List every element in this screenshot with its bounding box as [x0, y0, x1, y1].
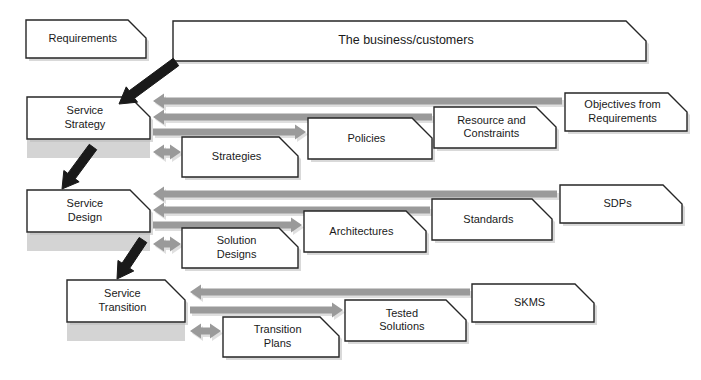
flag-node-requirements: Requirements — [26, 20, 149, 61]
flag-label-objectives-from-requirements: Objectives fromRequirements — [584, 98, 660, 124]
flag-label-service-strategy: ServiceStrategy — [64, 104, 105, 130]
flag-label-resource-and-constraints: Resource andConstraints — [457, 114, 526, 140]
flag-node-tested-solutions: TestedSolutions — [345, 300, 469, 344]
flag-node-skms: SKMS — [472, 284, 597, 325]
flag-node-standards: Standards — [432, 199, 555, 243]
flag-label-standards: Standards — [463, 212, 514, 224]
flag-label-service-transition: ServiceTransition — [98, 287, 146, 313]
flag-node-strategies: Strategies — [182, 137, 301, 180]
flag-node-architectures: Architectures — [304, 211, 429, 255]
flag-node-layer: RequirementsThe business/customersServic… — [26, 20, 690, 360]
service-transition-row-band — [67, 323, 185, 341]
flag-node-sdps: SDPs — [560, 185, 685, 226]
business-to-service-strategy-arrow — [119, 58, 179, 104]
diagram-canvas: RequirementsThe business/customersServic… — [0, 0, 701, 380]
flag-node-transition-plans: TransitionPlans — [223, 317, 342, 360]
flag-node-service-design: ServiceDesign — [27, 190, 153, 235]
flag-label-policies: Policies — [347, 131, 385, 143]
flag-label-architectures: Architectures — [329, 224, 394, 236]
flag-node-service-transition: ServiceTransition — [67, 280, 188, 325]
flag-node-resource-and-constraints: Resource andConstraints — [434, 107, 559, 151]
flag-label-strategies: Strategies — [212, 150, 262, 162]
flag-node-objectives-from-requirements: Objectives fromRequirements — [565, 93, 690, 134]
flag-node-solution-designs: SolutionDesigns — [182, 228, 301, 271]
flag-label-requirements: Requirements — [49, 32, 118, 44]
flag-node-business-customers: The business/customers — [173, 21, 649, 64]
flag-label-business-customers: The business/customers — [338, 33, 473, 47]
flag-label-sdps: SDPs — [604, 197, 633, 209]
flag-label-skms: SKMS — [514, 296, 545, 308]
flag-node-policies: Policies — [308, 118, 435, 162]
flag-label-solution-designs: SolutionDesigns — [217, 234, 257, 260]
flag-node-service-strategy: ServiceStrategy — [27, 97, 153, 142]
flag-label-service-design: ServiceDesign — [67, 197, 104, 223]
service-lifecycle-diagram: RequirementsThe business/customersServic… — [0, 0, 701, 380]
